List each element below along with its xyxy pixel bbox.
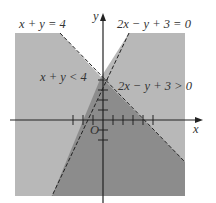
region-label-x-plus-y-lt-4: x + y < 4 [39, 70, 87, 84]
y-axis-arrow-icon [100, 13, 106, 21]
region-label-2x-minus-y-gt-0: 2x − y + 3 > 0 [118, 79, 193, 93]
line-label-x-plus-y: x + y = 4 [18, 17, 66, 31]
line-label-2x-minus-y: 2x − y + 3 = 0 [117, 17, 192, 31]
x-axis-label: x [192, 122, 199, 136]
origin-label: O [90, 123, 99, 137]
inequality-graph: x + y = 4 2x − y + 3 = 0 x + y < 4 2x − … [0, 0, 216, 203]
y-axis-label: y [91, 9, 99, 23]
